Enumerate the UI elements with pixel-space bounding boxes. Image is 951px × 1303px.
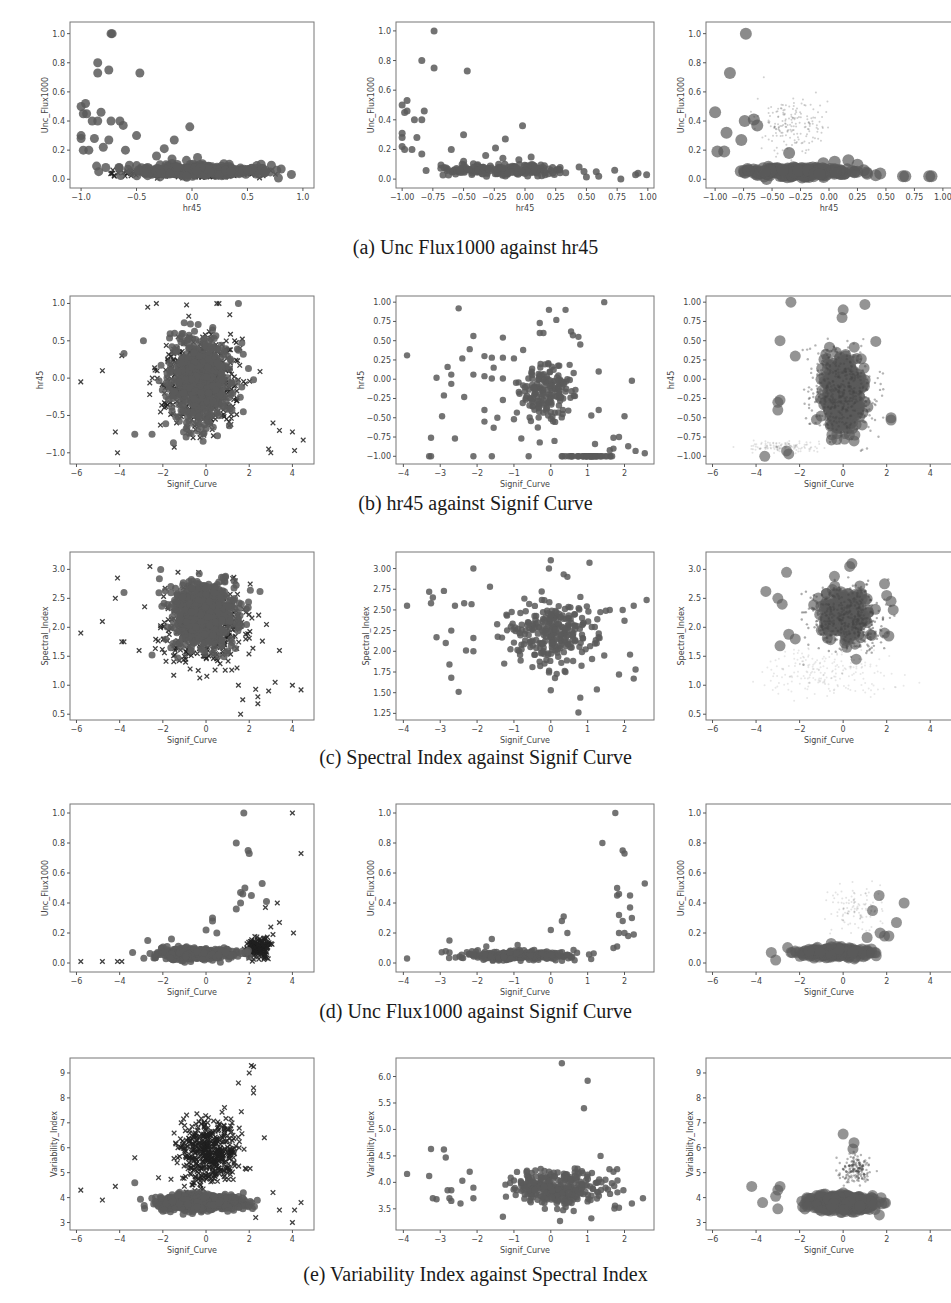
y-axis: −1.00−0.75−0.50−0.250.000.250.500.751.00	[676, 298, 706, 461]
y-axis-label: Variability_Index	[50, 1111, 59, 1177]
scatter-plot-e-3: −6−4−2024Signif_Curve3456789Variability_…	[664, 1054, 951, 1260]
x-tick-label: 1	[585, 977, 590, 986]
y-tick-label: −0.75	[366, 433, 391, 442]
y-tick-label: 0.5	[52, 710, 65, 719]
series-circles	[404, 299, 648, 460]
plot-area	[404, 557, 650, 716]
y-tick-label: 1.0	[52, 809, 65, 818]
x-axis: −1.00−0.75−0.50−0.250.000.250.500.751.00	[390, 188, 657, 202]
y-tick-label: 3.0	[52, 565, 65, 574]
y-axis-label: Unc_Flux1000	[367, 860, 376, 916]
y-tick-label: 0.8	[52, 839, 65, 848]
y-tick-label: 0.0	[52, 175, 65, 184]
y-tick-label: 5.0	[378, 1125, 391, 1134]
x-tick-label: 2	[622, 977, 627, 986]
y-tick-label: 0.6	[378, 869, 391, 878]
y-axis: 3456789	[60, 1069, 70, 1228]
x-tick-label: 0.75	[608, 193, 626, 202]
y-tick-label: 0.2	[688, 929, 701, 938]
x-axis-label: Signif_Curve	[500, 736, 550, 745]
y-tick-label: 0.50	[373, 337, 391, 346]
x-tick-label: 2	[247, 977, 252, 986]
y-tick-label: −0.50	[676, 414, 701, 423]
x-tick-label: 1	[585, 469, 590, 478]
y-tick-label: 2.5	[688, 594, 701, 603]
x-axis: −6−4−2024	[707, 720, 933, 734]
x-tick-label: −6	[707, 1235, 719, 1244]
plot-area	[709, 28, 937, 185]
x-tick-label: 4	[290, 977, 295, 986]
y-tick-label: 1.0	[688, 30, 701, 39]
y-tick-label: 0.4	[378, 116, 391, 125]
scatter-plot-e-1: −6−4−2024Signif_Curve3456789Variability_…	[34, 1054, 320, 1260]
series-circles	[404, 557, 650, 716]
y-tick-label: 0.6	[688, 88, 701, 97]
x-tick-label: 1.0	[297, 193, 310, 202]
x-tick-label: −1	[508, 469, 520, 478]
y-tick-label: −1.00	[366, 452, 391, 461]
x-axis: −1.0−0.50.00.51.0	[71, 188, 309, 202]
x-tick-label: 2	[622, 725, 627, 734]
series-large-circles	[766, 890, 910, 966]
y-tick-label: 1.50	[373, 689, 391, 698]
x-tick-label: 2	[622, 1235, 627, 1244]
x-axis-label: Signif_Curve	[804, 1246, 854, 1255]
y-tick-label: −0.5	[46, 411, 65, 420]
x-tick-label: −4	[114, 469, 126, 478]
x-tick-label: 0	[203, 1235, 208, 1244]
x-tick-label: −6	[707, 977, 719, 986]
plot-area	[404, 299, 648, 460]
x-tick-label: 0.0	[186, 193, 199, 202]
x-tick-label: −1	[508, 977, 520, 986]
plot-area	[78, 810, 303, 966]
x-tick-label: −0.25	[788, 193, 813, 202]
plot-area	[78, 564, 303, 716]
plot-area	[404, 1060, 646, 1224]
y-tick-label: 1.0	[52, 30, 65, 39]
x-tick-label: −4	[397, 1235, 409, 1244]
x-tick-label: 1	[585, 725, 590, 734]
x-tick-label: −1	[508, 725, 520, 734]
x-tick-label: 0	[203, 977, 208, 986]
y-tick-label: 7	[696, 1119, 701, 1128]
x-axis: −6−4−2024	[71, 1230, 295, 1244]
figure-caption-a: (a) Unc Flux1000 against hr45	[0, 236, 951, 259]
y-tick-label: 0.25	[373, 356, 391, 365]
y-tick-label: 3.00	[373, 565, 391, 574]
x-tick-label: 4	[928, 977, 933, 986]
x-tick-label: 0	[841, 1235, 846, 1244]
x-tick-label: −3	[434, 1235, 446, 1244]
x-axis-label: Signif_Curve	[500, 1246, 550, 1255]
y-tick-label: 2.5	[52, 594, 65, 603]
y-tick-label: 0.5	[52, 337, 65, 346]
y-axis-label: Unc_Flux1000	[367, 77, 376, 133]
x-axis-label: Signif_Curve	[500, 988, 550, 997]
x-tick-label: −6	[71, 469, 83, 478]
x-tick-label: 0.25	[547, 193, 565, 202]
x-tick-label: 1.00	[639, 193, 657, 202]
y-tick-label: −0.25	[366, 394, 391, 403]
figure-caption-c: (c) Spectral Index against Signif Curve	[0, 746, 951, 769]
x-tick-label: 4	[928, 1235, 933, 1244]
y-axis: 1.251.501.752.002.252.502.753.00	[373, 565, 396, 719]
y-axis: 3456789	[696, 1069, 706, 1228]
y-axis: 0.51.01.52.02.53.0	[52, 565, 70, 719]
y-tick-label: −0.50	[366, 414, 391, 423]
x-tick-label: −1.00	[703, 193, 728, 202]
y-axis: 3.54.04.55.05.56.0	[378, 1073, 396, 1214]
y-axis-label: Unc_Flux1000	[41, 77, 50, 133]
y-tick-label: 1.00	[683, 298, 701, 307]
y-tick-label: 0.0	[688, 175, 701, 184]
series-circles	[120, 566, 263, 662]
y-axis-label: hr45	[357, 371, 366, 390]
x-tick-label: 2	[247, 1235, 252, 1244]
x-tick-label: 0.00	[516, 193, 534, 202]
plot-area	[732, 297, 896, 462]
scatter-plot-d-1: −6−4−2024Signif_Curve0.00.20.40.60.81.0U…	[34, 800, 320, 1002]
y-tick-label: 0.75	[683, 317, 701, 326]
y-tick-label: 2.25	[373, 627, 391, 636]
plot-area	[77, 29, 296, 182]
y-tick-label: 0.5	[688, 710, 701, 719]
y-tick-label: 0.75	[373, 317, 391, 326]
y-tick-label: 1.0	[688, 681, 701, 690]
